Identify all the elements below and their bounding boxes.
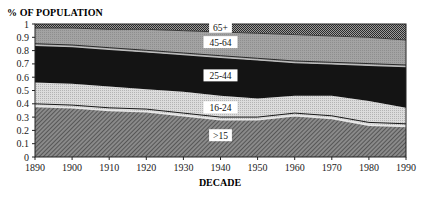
- chart-canvas: % OF POPULATION 00.10.20.30.40.50.60.70.…: [0, 0, 428, 204]
- band-label: >15: [213, 131, 228, 141]
- x-axis-title: DECADE: [199, 177, 242, 188]
- y-tick-label: 0.6: [17, 72, 30, 83]
- x-tick-label: 1910: [99, 162, 119, 173]
- x-tick-label: 1990: [396, 162, 416, 173]
- y-tick-label: 0.5: [17, 85, 30, 96]
- y-tick-label: 1: [24, 19, 29, 30]
- band-label: 45-64: [209, 38, 231, 48]
- y-tick-label: 0.9: [17, 32, 30, 43]
- x-tick-label: 1900: [62, 162, 82, 173]
- x-tick-label: 1950: [248, 162, 268, 173]
- stacked-area-chart: % OF POPULATION 00.10.20.30.40.50.60.70.…: [0, 0, 428, 204]
- y-tick-label: 0.7: [17, 58, 30, 69]
- x-tick-label: 1920: [136, 162, 156, 173]
- band-label: 25-44: [209, 71, 231, 81]
- y-tick-label: 0.3: [17, 112, 30, 123]
- x-tick-label: 1980: [359, 162, 379, 173]
- x-tick-label: 1890: [25, 162, 45, 173]
- band-label: 65+: [213, 23, 228, 33]
- y-axis-title: % OF POPULATION: [7, 7, 104, 18]
- x-tick-label: 1930: [173, 162, 193, 173]
- x-tick-label: 1960: [285, 162, 305, 173]
- x-tick-label: 1940: [211, 162, 231, 173]
- band-label: 16-24: [209, 103, 231, 113]
- y-tick-label: 0.1: [17, 138, 30, 149]
- y-tick-label: 0.2: [17, 125, 30, 136]
- y-tick-label: 0: [24, 152, 29, 163]
- x-tick-label: 1970: [322, 162, 342, 173]
- y-tick-label: 0.4: [17, 98, 30, 109]
- y-tick-label: 0.8: [17, 45, 30, 56]
